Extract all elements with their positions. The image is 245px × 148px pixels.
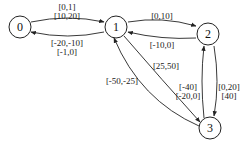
- node-0: 0: [9, 16, 31, 38]
- node-label-1: 1: [113, 20, 119, 34]
- edge-2-to-1: [128, 32, 196, 38]
- edge-label-2-3-b: [40]: [222, 91, 237, 101]
- node-3: 3: [199, 117, 221, 139]
- edge-label-1-0-b: [-1,0]: [57, 47, 77, 57]
- node-label-3: 3: [207, 121, 213, 135]
- edge-label-1-2: [0,10]: [151, 11, 173, 21]
- edge-label-0-1-b: [10,20]: [54, 11, 80, 21]
- graph-canvas: [0,1] [10,20] [-20,-10] [-1,0] [0,10] [-…: [0, 0, 245, 148]
- edge-label-3-2-b: [-20,0]: [176, 91, 201, 101]
- edge-label-2-1: [-10,0]: [150, 40, 175, 50]
- edge-2-to-3: [214, 46, 217, 116]
- node-label-0: 0: [17, 20, 23, 34]
- edge-label-3-1: [-50,-25]: [106, 76, 138, 86]
- node-label-2: 2: [205, 27, 211, 41]
- edge-3-to-2: [202, 46, 204, 118]
- node-2: 2: [197, 23, 219, 45]
- edge-1-to-0: [31, 32, 104, 36]
- edge-label-1-3: [25,50]: [153, 61, 179, 71]
- node-1: 1: [105, 16, 127, 38]
